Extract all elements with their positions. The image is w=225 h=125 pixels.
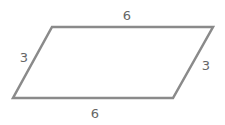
bottom-side-label: 6 <box>91 106 99 121</box>
right-side-label: 3 <box>202 58 210 73</box>
top-side-label: 6 <box>123 8 131 23</box>
parallelogram-shape <box>13 27 213 98</box>
parallelogram-diagram: 6 3 3 6 <box>0 0 225 125</box>
left-side-label: 3 <box>20 50 28 65</box>
